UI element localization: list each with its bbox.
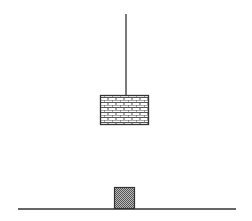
hanging-brick-block <box>101 96 149 125</box>
small-box <box>115 188 135 209</box>
physics-diagram <box>0 0 252 221</box>
